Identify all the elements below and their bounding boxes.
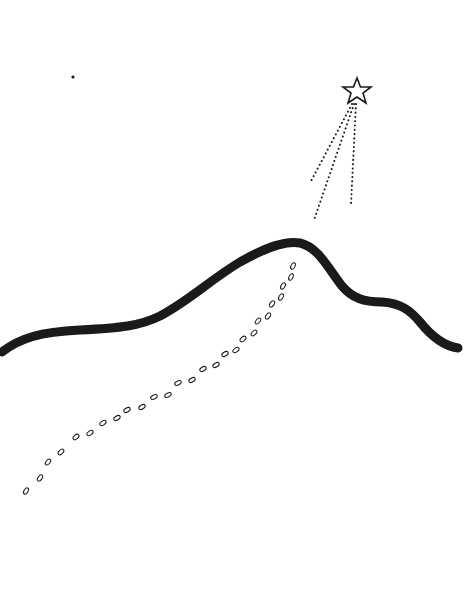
star-trail-right: [351, 104, 356, 204]
drawing-canvas: [0, 0, 468, 595]
footprints-trail: [23, 262, 297, 495]
star-trail-middle: [314, 104, 354, 220]
shooting-star: [311, 78, 371, 220]
hill-outline: [2, 242, 458, 352]
line-drawing: [0, 0, 468, 595]
small-star-dot: [71, 75, 74, 78]
star-icon: [343, 78, 371, 103]
